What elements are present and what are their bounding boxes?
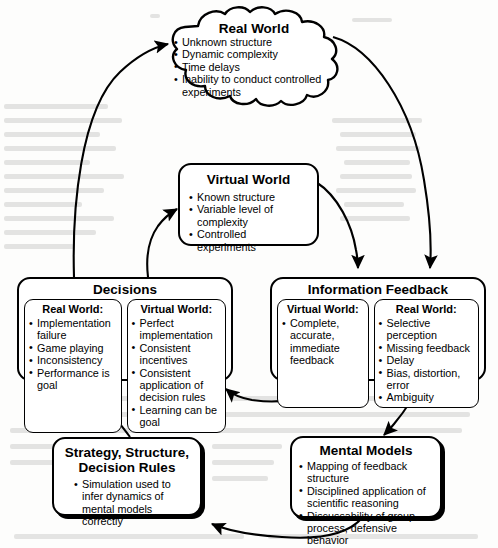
list-item: Perfect implementation bbox=[132, 317, 222, 342]
strategy-title-line-1: Strategy, Structure, bbox=[62, 445, 192, 460]
list-item: Time delays bbox=[174, 61, 334, 73]
edge-virtual-world-to-information-feedback bbox=[316, 182, 358, 268]
list-item: Game playing bbox=[29, 342, 117, 354]
information-feedback-virtual-world-subbox[interactable]: Virtual World: Complete, accurate, immed… bbox=[277, 299, 369, 408]
list-item: Unknown structure bbox=[174, 36, 334, 48]
list-item: Selective perception bbox=[379, 317, 474, 342]
list-item: Learning can be goal bbox=[132, 404, 222, 429]
list-item: Variable level of complexity bbox=[189, 203, 308, 228]
list-item: Mapping of feedback structure bbox=[299, 460, 433, 485]
list-item: Missing feedback bbox=[379, 342, 474, 354]
virtual-world-bullets: Known structure Variable level of comple… bbox=[189, 191, 308, 253]
real-world-title: Real World bbox=[174, 21, 334, 36]
decisions-title: Decisions bbox=[24, 282, 226, 297]
diagram-canvas: Real World Unknown structure Dynamic com… bbox=[0, 0, 498, 548]
subbox-heading: Virtual World: bbox=[282, 303, 364, 316]
list-item: Disciplined application of scientific re… bbox=[299, 485, 433, 510]
node-virtual-world[interactable]: Virtual World Known structure Variable l… bbox=[178, 163, 319, 246]
list-item: Simulation used to infer dynamics of men… bbox=[74, 478, 192, 528]
list-item: Known structure bbox=[189, 191, 308, 203]
list-item: Dynamic complexity bbox=[174, 48, 334, 60]
list-item: Implementation failure bbox=[29, 317, 117, 342]
information-feedback-title: Information Feedback bbox=[277, 282, 479, 297]
subbox-heading: Real World: bbox=[29, 303, 117, 316]
decisions-virtual-world-bullets: Perfect implementation Consistent incent… bbox=[132, 317, 222, 429]
strategy-bullets: Simulation used to infer dynamics of men… bbox=[62, 478, 192, 528]
node-strategy-structure-decision-rules[interactable]: Strategy, Structure, Decision Rules Simu… bbox=[52, 437, 202, 516]
decisions-real-world-subbox[interactable]: Real World: Implementation failure Game … bbox=[24, 299, 122, 433]
edge-real-world-to-information-feedback bbox=[333, 37, 431, 268]
subbox-heading: Virtual World: bbox=[132, 303, 222, 316]
node-real-world[interactable]: Real World Unknown structure Dynamic com… bbox=[160, 4, 346, 110]
list-item: Bias, distortion, error bbox=[379, 367, 474, 392]
list-item: Complete, accurate, immediate feedback bbox=[282, 317, 364, 367]
list-item: Delay bbox=[379, 354, 474, 366]
strategy-title-line-2: Decision Rules bbox=[62, 460, 192, 475]
node-mental-models[interactable]: Mental Models Mapping of feedback struct… bbox=[290, 436, 442, 518]
decisions-real-world-bullets: Implementation failure Game playing Inco… bbox=[29, 317, 117, 391]
real-world-bullets: Unknown structure Dynamic complexity Tim… bbox=[174, 36, 334, 98]
virtual-world-title: Virtual World bbox=[189, 172, 308, 187]
list-item: Performance is goal bbox=[29, 367, 117, 392]
list-item: Inconsistency bbox=[29, 354, 117, 366]
list-item: Ambiguity bbox=[379, 391, 474, 403]
list-item: Consistent application of decision rules bbox=[132, 367, 222, 404]
information-feedback-virtual-world-bullets: Complete, accurate, immediate feedback bbox=[282, 317, 364, 367]
decisions-virtual-world-subbox[interactable]: Virtual World: Perfect implementation Co… bbox=[127, 299, 227, 433]
mental-models-title: Mental Models bbox=[299, 443, 433, 458]
edge-decisions-to-real-world bbox=[74, 44, 168, 277]
list-item: Consistent incentives bbox=[132, 342, 222, 367]
list-item: Inability to conduct controlled experime… bbox=[174, 73, 334, 98]
information-feedback-real-world-subbox[interactable]: Real World: Selective perception Missing… bbox=[374, 299, 479, 408]
edge-decisions-to-virtual-world bbox=[147, 209, 177, 277]
node-decisions[interactable]: Decisions Real World: Implementation fai… bbox=[17, 277, 233, 381]
list-item: Discussability of group process, defensi… bbox=[299, 510, 433, 547]
information-feedback-real-world-bullets: Selective perception Missing feedback De… bbox=[379, 317, 474, 404]
node-information-feedback[interactable]: Information Feedback Virtual World: Comp… bbox=[270, 277, 486, 381]
subbox-heading: Real World: bbox=[379, 303, 474, 316]
list-item: Controlled experiments bbox=[189, 228, 308, 253]
mental-models-bullets: Mapping of feedback structure Discipline… bbox=[299, 460, 433, 547]
